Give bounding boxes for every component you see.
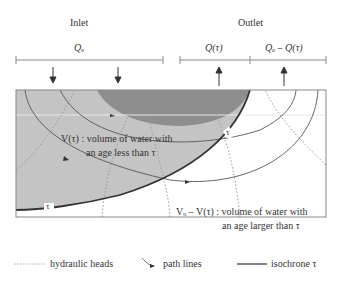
legend-isochrone: isochrone τ	[271, 258, 316, 269]
outflow-arrows	[216, 67, 287, 86]
outlet-flow-rest-label: Qₒ – Q(τ)	[265, 42, 303, 53]
inlet-flow-label: Qₒ	[74, 42, 84, 53]
isochrone-tau-tag-left: τ	[46, 201, 50, 211]
inlet-dimension-bar	[16, 56, 163, 64]
path-lines-legend-symbol	[142, 258, 154, 266]
legend-path-lines: path lines	[163, 258, 202, 269]
young-water-label-line1: V(τ) : volume of water with	[61, 133, 173, 144]
legend-hydraulic-heads: hydraulic heads	[50, 258, 113, 269]
outlet-flow-tau-label: Q(τ)	[205, 42, 222, 53]
young-water-label-line2: an age less than τ	[86, 147, 156, 158]
old-water-label-line1: Vₒ – V(τ) : volume of water with	[176, 206, 307, 217]
path-lines-legend-arrow	[150, 264, 155, 268]
outlet-dimension-bar	[180, 56, 326, 64]
old-water-label-line2: an age larger than τ	[222, 220, 300, 231]
inflow-arrows	[50, 67, 121, 83]
outlet-label: Outlet	[238, 17, 263, 28]
isochrone-tau-tag-right: τ	[226, 127, 230, 137]
inlet-label: Inlet	[70, 17, 88, 28]
